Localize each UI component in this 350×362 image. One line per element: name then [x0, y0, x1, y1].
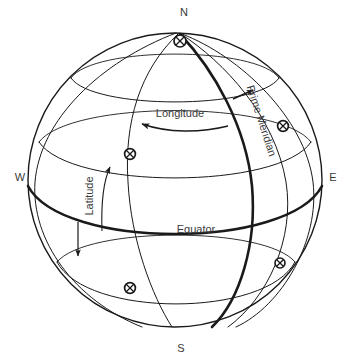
- globe-diagram: N S W E Longitude Latitude Equator Prime…: [0, 0, 350, 362]
- latitude-label: Latitude: [83, 176, 95, 215]
- longitude-label: Longitude: [156, 107, 204, 119]
- globe-svg-canvas: N S W E Longitude Latitude Equator Prime…: [0, 0, 350, 362]
- cardinal-label-south: S: [177, 342, 184, 354]
- cardinal-label-north: N: [180, 6, 188, 18]
- grid-marker-se: [275, 258, 285, 268]
- grid-marker-sw: [125, 283, 136, 294]
- cardinal-label-east: E: [329, 171, 336, 183]
- grid-marker-nw: [125, 149, 136, 160]
- north-pole-marker: [174, 35, 186, 47]
- cardinal-label-west: W: [15, 171, 26, 183]
- equator-label: Equator: [177, 223, 216, 235]
- grid-marker-ne: [278, 121, 289, 132]
